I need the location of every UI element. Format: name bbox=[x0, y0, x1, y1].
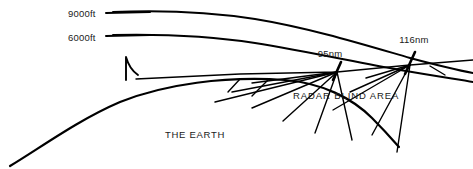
radial-fan-inner bbox=[215, 72, 352, 140]
range-inner-label: 95nm bbox=[318, 48, 343, 59]
radial-line bbox=[232, 72, 337, 92]
range-tick-95nm bbox=[333, 62, 341, 80]
radar-blind-area-diagram: 9000ft 6000ft 95nm 116nm RADAR BLIND ARE… bbox=[0, 0, 473, 169]
radial-fan-outer bbox=[333, 65, 445, 152]
blind-area-label: RADAR BLIND AREA bbox=[293, 90, 399, 101]
diagram-canvas: 9000ft 6000ft 95nm 116nm RADAR BLIND ARE… bbox=[0, 0, 473, 169]
range-outer-label: 116nm bbox=[399, 34, 428, 45]
altitude-upper-label: 9000ft bbox=[68, 8, 96, 19]
radial-line bbox=[228, 79, 240, 92]
radar-antenna-icon bbox=[126, 57, 138, 80]
range-tick-116nm bbox=[405, 52, 415, 74]
earth-label: THE EARTH bbox=[165, 129, 225, 140]
radial-line bbox=[350, 65, 410, 92]
altitude-lower-label: 6000ft bbox=[68, 32, 96, 43]
